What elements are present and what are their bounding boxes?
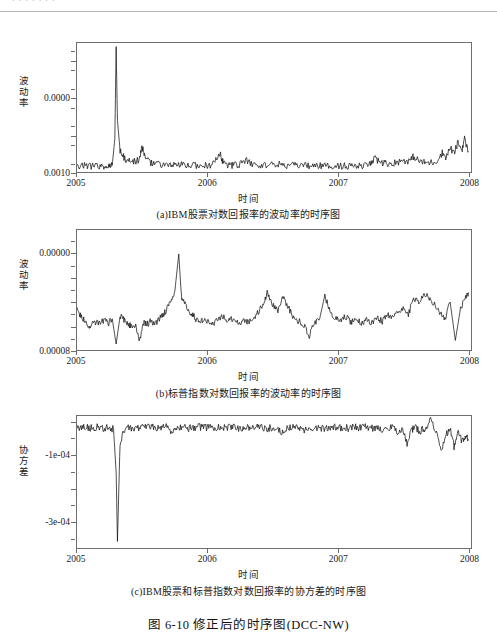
- plot-area-c: 协方差 -1e-04-3e-04 2005200620072008 时间: [0, 411, 497, 583]
- y-tick-mark-b-3: [71, 278, 76, 279]
- y-tick-mark-b-9: [71, 241, 75, 242]
- x-tick-mark-a-3: [469, 173, 470, 177]
- plot-area-b: 波动率 0.000080.00000 2005200620072008 时间: [0, 225, 497, 385]
- x-tick-mark-b-0: [76, 351, 77, 355]
- x-tick-label-b-3: 2008: [460, 356, 479, 366]
- x-tick-label-c-0: 2005: [67, 554, 86, 564]
- y-tick-mark-a-10: [71, 51, 75, 52]
- figure-panel-c: 协方差 -1e-04-3e-04 2005200620072008 时间 (c)…: [0, 411, 497, 583]
- y-tick-mark-c-3: [71, 422, 76, 423]
- y-tick-mark-b-4: [71, 253, 76, 254]
- x-tick-label-b-1: 2006: [198, 356, 217, 366]
- x-tick-mark-c-2: [338, 549, 339, 553]
- page-header-text: · · · · · · ·: [12, 0, 56, 5]
- y-tick-mark-a-3: [71, 61, 76, 62]
- x-axis-title-c: 时间: [0, 567, 497, 581]
- y-tick-mark-a-7: [71, 108, 75, 109]
- subcaption-a: (a)IBM股票对数回报率的波动率的时序图: [0, 206, 497, 221]
- subcaption-b: (b)标普指数对数回报率的波动率的时序图: [0, 385, 497, 400]
- y-tick-mark-b-6: [71, 314, 75, 315]
- x-axis-title-a: 时间: [0, 191, 497, 205]
- y-tick-mark-a-1: [71, 136, 76, 137]
- y-tick-mark-a-2: [71, 98, 76, 99]
- y-tick-mark-b-5: [71, 339, 75, 340]
- series-line-a: [77, 43, 471, 172]
- x-tick-label-c-2: 2007: [329, 554, 348, 564]
- y-tick-mark-a-0: [71, 173, 76, 174]
- y-tick-mark-a-8: [71, 89, 75, 90]
- figure-panel-b: 波动率 0.000080.00000 2005200620072008 时间 (…: [0, 225, 497, 385]
- x-tick-mark-b-3: [469, 351, 470, 355]
- y-tick-label-b-0: 0.00008: [39, 346, 70, 356]
- series-line-b: [77, 230, 471, 350]
- plot-box-b: [76, 229, 472, 351]
- y-tick-mark-b-1: [71, 327, 76, 328]
- y-tick-mark-c-0: [71, 522, 76, 523]
- y-tick-mark-b-7: [71, 290, 75, 291]
- x-axis-title-b: 时间: [0, 369, 497, 383]
- x-tick-label-c-3: 2008: [460, 554, 479, 564]
- x-tick-mark-a-1: [207, 173, 208, 177]
- x-tick-label-c-1: 2006: [198, 554, 217, 564]
- y-tick-mark-a-6: [71, 126, 75, 127]
- x-tick-mark-a-0: [76, 173, 77, 177]
- y-tick-label-b-1: 0.00000: [39, 248, 70, 258]
- y-tick-label-a-0: 0.0010: [44, 168, 70, 178]
- y-tick-mark-b-0: [71, 351, 76, 352]
- x-tick-mark-b-1: [207, 351, 208, 355]
- header-rule: [0, 11, 497, 12]
- x-tick-label-b-0: 2005: [67, 356, 86, 366]
- x-tick-mark-c-0: [76, 549, 77, 553]
- x-tick-mark-c-1: [207, 549, 208, 553]
- x-tick-mark-a-2: [338, 173, 339, 177]
- page-header: · · · · · · ·: [0, 0, 497, 13]
- plot-box-a: [76, 42, 472, 173]
- y-tick-mark-a-4: [71, 164, 75, 165]
- x-tick-label-a-0: 2005: [67, 178, 86, 188]
- y-axis-ticks-b: 0.000080.00000: [26, 229, 70, 351]
- figure-title: 图 6-10 修正后的时序图(DCC-NW): [0, 614, 497, 633]
- y-tick-label-c-1: -3e-04: [45, 517, 70, 527]
- y-axis-ticks-c: -1e-04-3e-04: [26, 415, 70, 549]
- y-tick-label-c-0: -1e-04: [45, 450, 70, 460]
- y-tick-mark-c-4: [71, 539, 75, 540]
- y-tick-mark-a-9: [71, 70, 75, 71]
- x-tick-label-a-1: 2006: [198, 178, 217, 188]
- y-tick-mark-c-7: [71, 438, 75, 439]
- x-tick-mark-b-2: [338, 351, 339, 355]
- y-tick-label-a-1: 0.0000: [44, 93, 70, 103]
- y-axis-ticks-a: 0.00100.0000: [26, 42, 70, 173]
- y-tick-mark-c-2: [71, 455, 76, 456]
- x-tick-label-a-3: 2008: [460, 178, 479, 188]
- x-tick-mark-c-3: [469, 549, 470, 553]
- y-tick-mark-c-6: [71, 472, 75, 473]
- series-line-c: [77, 416, 471, 548]
- plot-box-c: [76, 415, 472, 549]
- y-tick-mark-b-2: [71, 302, 76, 303]
- subcaption-c: (c)IBM股票和标普指数对数回报率的协方差的时序图: [0, 583, 497, 598]
- y-tick-mark-c-1: [71, 489, 76, 490]
- y-tick-mark-c-5: [71, 505, 75, 506]
- y-tick-mark-a-5: [71, 145, 75, 146]
- x-tick-label-b-2: 2007: [329, 356, 348, 366]
- y-tick-mark-b-8: [71, 266, 75, 267]
- x-tick-label-a-2: 2007: [329, 178, 348, 188]
